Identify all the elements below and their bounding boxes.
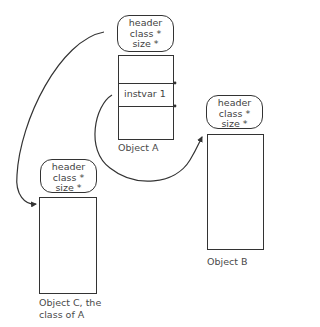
object-b-header: header class * size * [206,95,263,129]
object-a-body: instvar 1 [118,55,174,140]
slot-instvar-1: instvar 1 [124,88,166,99]
slot-divider [119,83,173,84]
slot-pointer-dot [174,105,177,108]
object-b-body [207,134,264,250]
slot-divider [119,106,173,107]
header-line: size * [207,119,262,130]
object-b-label: Object B [207,256,247,268]
header-line: header [118,18,173,29]
object-a-header: header class * size * [117,15,174,52]
label-line: Object C, the [39,297,101,309]
header-line: header [207,98,262,109]
object-c-body [39,197,97,294]
object-c-header: header class * size * [40,159,97,193]
slot-pointer-dot [174,82,177,85]
label-line: class of A [39,309,101,321]
object-c-label: Object C, the class of A [39,297,101,321]
label-line: Object B [207,256,247,268]
header-line: size * [118,39,173,50]
object-a-label: Object A [118,142,158,154]
header-line: size * [41,183,96,194]
label-line: Object A [118,142,158,154]
header-line: header [41,162,96,173]
